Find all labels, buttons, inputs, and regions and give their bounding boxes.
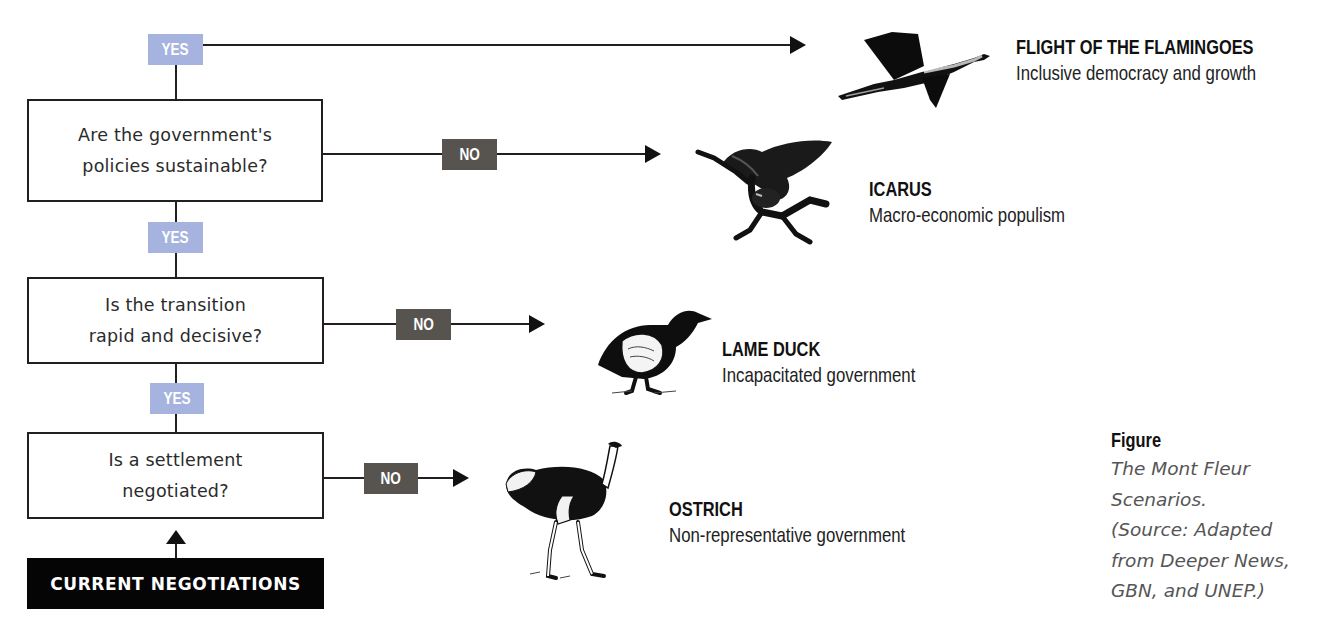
outcome-description: Incapacitated government bbox=[722, 362, 915, 388]
caption-body: The Mont Fleur Scenarios. (Source: Adapt… bbox=[1111, 454, 1328, 607]
arrowhead-flamingoes bbox=[790, 36, 806, 54]
yes-badge-policies: YES bbox=[148, 34, 203, 65]
outcome-description: Inclusive democracy and growth bbox=[1016, 60, 1256, 86]
outcome-flamingoes: FLIGHT OF THE FLAMINGOES Inclusive democ… bbox=[1016, 34, 1320, 86]
connector-q1-to-yes-top bbox=[175, 65, 177, 101]
outcome-title: ICARUS bbox=[869, 176, 932, 202]
outcome-description: Non-representative government bbox=[669, 522, 905, 548]
arrowhead-ostrich bbox=[453, 469, 469, 487]
connector-yes-to-flamingoes bbox=[203, 44, 793, 46]
arrowhead-icarus bbox=[645, 145, 661, 163]
start-box-current-negotiations: CURRENT NEGOTIATIONS bbox=[27, 558, 324, 609]
duck-icon bbox=[592, 305, 716, 397]
caption-title: Figure bbox=[1111, 426, 1161, 454]
outcome-icarus: ICARUS Macro-economic populism bbox=[869, 176, 1114, 228]
question-text: Is the transition rapid and decisive? bbox=[89, 290, 263, 352]
question-text: Is a settlement negotiated? bbox=[108, 445, 242, 507]
question-text: Are the government's policies sustainabl… bbox=[78, 120, 272, 182]
outcome-ostrich: OSTRICH Non-representative government bbox=[669, 496, 964, 548]
no-badge-settlement: NO bbox=[364, 463, 418, 494]
arrowhead-lame-duck bbox=[529, 315, 545, 333]
outcome-description: Macro-economic populism bbox=[869, 202, 1065, 228]
arrowhead-up-q3 bbox=[166, 530, 186, 544]
question-box-policies-sustainable: Are the government's policies sustainabl… bbox=[27, 99, 323, 202]
yes-badge-settlement: YES bbox=[150, 383, 204, 414]
icarus-icon bbox=[692, 138, 842, 253]
outcome-title: OSTRICH bbox=[669, 496, 743, 522]
no-badge-transition: NO bbox=[396, 309, 451, 340]
question-box-settlement-negotiated: Is a settlement negotiated? bbox=[27, 432, 324, 519]
outcome-title: LAME DUCK bbox=[722, 336, 820, 362]
figure-caption: Figure The Mont Fleur Scenarios. (Source… bbox=[1111, 426, 1328, 607]
question-box-transition-rapid: Is the transition rapid and decisive? bbox=[27, 277, 324, 364]
outcome-title: FLIGHT OF THE FLAMINGOES bbox=[1016, 34, 1253, 60]
flamingo-icon bbox=[834, 28, 994, 110]
ostrich-icon bbox=[500, 440, 628, 585]
outcome-lame-duck: LAME DUCK Incapacitated government bbox=[722, 336, 964, 388]
no-badge-policies: NO bbox=[442, 139, 497, 170]
yes-badge-transition: YES bbox=[148, 222, 203, 253]
